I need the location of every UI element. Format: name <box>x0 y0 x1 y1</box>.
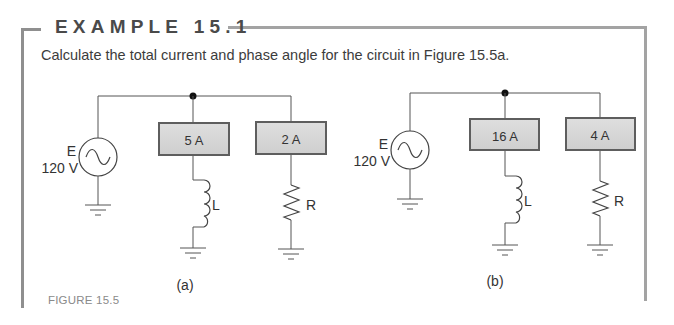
source-name-label: E <box>379 136 388 152</box>
ground-icon <box>85 205 111 215</box>
resistor-label: R <box>306 197 316 213</box>
ammeter-resistor-branch-a: 2 A <box>255 121 327 155</box>
figure-15-5-schematics: 5 A 2 A E 120 V L R (a) <box>0 0 674 325</box>
subfigure-label-a: (a) <box>176 277 193 293</box>
ground-icon <box>492 245 518 255</box>
inductor-icon <box>516 176 522 223</box>
ground-icon <box>180 248 206 258</box>
inductor-icon <box>204 180 210 227</box>
ac-source-icon <box>79 138 117 176</box>
circuit-a <box>79 93 304 260</box>
ammeter-inductor-branch-b: 16 A <box>469 118 540 151</box>
ground-icon <box>278 249 304 259</box>
ground-icon <box>587 245 613 255</box>
meter-reading: 4 A <box>591 128 610 143</box>
resistor-label: R <box>614 193 624 209</box>
ammeter-resistor-branch-b: 4 A <box>565 117 636 151</box>
source-name-label: E <box>67 143 76 159</box>
inductor-label: L <box>524 193 532 209</box>
meter-reading: 16 A <box>492 129 518 144</box>
figure-caption: FIGURE 15.5 <box>48 294 119 306</box>
meter-reading: 2 A <box>282 132 301 147</box>
ammeter-inductor-branch-a: 5 A <box>158 122 230 156</box>
source-voltage-label: 120 V <box>41 160 78 176</box>
meter-reading: 5 A <box>185 133 204 148</box>
ground-icon <box>397 199 423 209</box>
subfigure-label-b: (b) <box>486 273 503 289</box>
ac-source-icon <box>391 131 429 169</box>
source-voltage-label: 120 V <box>353 153 390 169</box>
resistor-icon <box>593 181 608 216</box>
resistor-icon <box>284 185 299 220</box>
inductor-label: L <box>212 197 220 213</box>
circuit-b <box>391 90 613 256</box>
